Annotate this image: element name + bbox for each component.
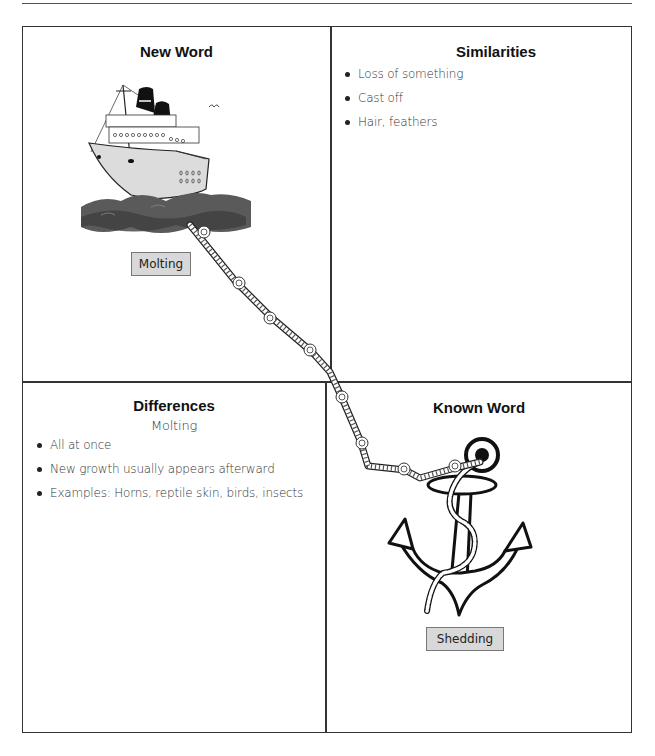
list-item: Cast off xyxy=(340,86,631,110)
top-rule xyxy=(22,3,632,4)
quadrant-known-word: Known Word Shedding xyxy=(327,383,631,733)
quadrant-heading: New Word xyxy=(23,43,330,60)
list-item: New growth usually appears afterward xyxy=(32,457,325,481)
list-item: All at once xyxy=(32,433,325,457)
new-word-box: Molting xyxy=(131,252,191,276)
quadrant-heading: Similarities xyxy=(361,43,631,60)
anchor-icon xyxy=(387,433,537,633)
quadrant-differences: Differences Molting All at once New grow… xyxy=(23,383,325,733)
similarities-list: Loss of something Cast off Hair, feather… xyxy=(340,62,631,134)
quadrant-heading: Known Word xyxy=(327,399,631,416)
organizer-frame: New Word xyxy=(22,26,632,733)
ship-icon xyxy=(81,77,251,257)
known-word-box: Shedding xyxy=(426,627,504,651)
quadrant-similarities: Similarities Loss of something Cast off … xyxy=(331,27,631,381)
differences-list: All at once New growth usually appears a… xyxy=(32,433,325,505)
list-item: Hair, feathers xyxy=(340,110,631,134)
quadrant-heading: Differences xyxy=(23,397,325,414)
differences-subheading: Molting xyxy=(23,418,325,433)
list-item: Examples: Horns, reptile skin, birds, in… xyxy=(32,481,325,505)
quadrant-new-word: New Word xyxy=(23,27,330,381)
list-item: Loss of something xyxy=(340,62,631,86)
